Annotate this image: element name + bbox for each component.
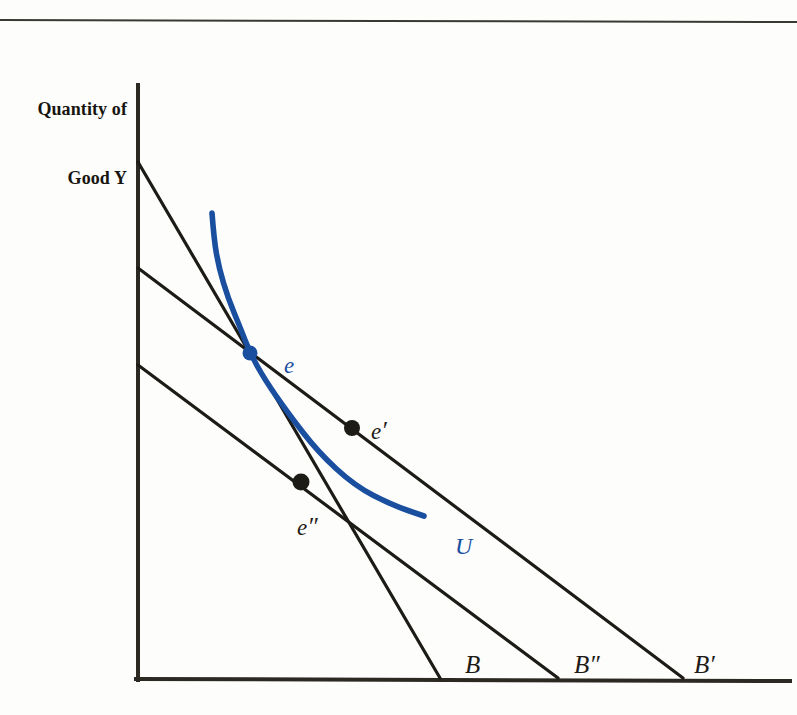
point-label-e-text: e — [284, 353, 294, 378]
point-label-e-double-prime: e″ — [274, 491, 318, 562]
budget-label-B-prime-mark: ′ — [709, 651, 714, 678]
point-label-e-prime: e′ — [348, 395, 387, 466]
point-label-e: e — [261, 331, 294, 400]
budget-label-B-prime-text: B — [694, 651, 709, 678]
budget-label-B-double-prime-mark: ″ — [589, 651, 599, 678]
point-e — [243, 346, 258, 361]
point-label-e-prime-mark: ′ — [381, 417, 386, 444]
budget-line-B — [138, 162, 440, 678]
budget-line-B-prime — [138, 268, 683, 678]
y-axis-title-line1: Quantity of — [0, 98, 127, 121]
y-axis-title-line2: Good Y — [0, 167, 127, 190]
point-e-double-prime — [293, 474, 310, 491]
budget-label-B-double-prime-text: B — [574, 651, 589, 678]
point-label-e-prime-text: e — [371, 419, 381, 444]
point-label-e-double-prime-text: e — [297, 515, 307, 540]
budget-label-B: B — [440, 627, 480, 702]
figure-container: Quantity of Good Y e e′ e″ U B B″ B′ — [0, 0, 797, 715]
budget-label-B-double-prime: B″ — [549, 627, 600, 702]
budget-label-B-text: B — [465, 651, 480, 678]
y-axis-title: Quantity of Good Y — [0, 52, 127, 236]
curve-label-U-text: U — [455, 533, 472, 559]
point-label-e-double-prime-mark: ″ — [307, 513, 317, 540]
curve-label-U: U — [431, 510, 472, 582]
budget-label-B-prime: B′ — [669, 627, 715, 702]
